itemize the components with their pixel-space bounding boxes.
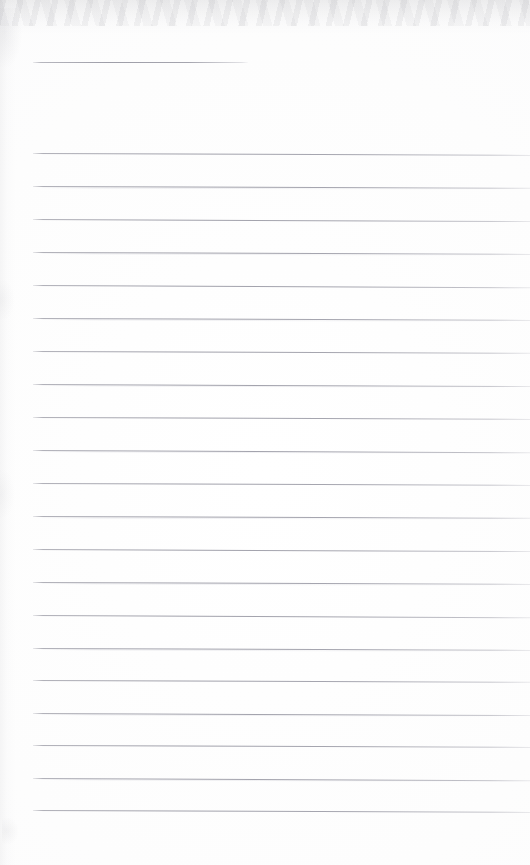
scanned-page <box>0 0 530 865</box>
writing-area[interactable] <box>33 130 530 830</box>
